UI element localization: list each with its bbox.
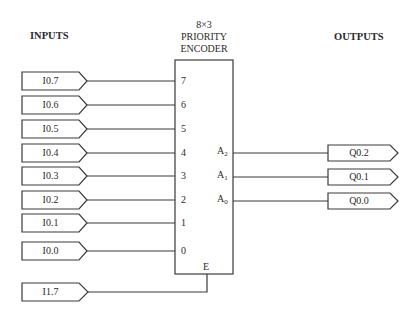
pin-5: 5 (181, 123, 186, 134)
outputs-heading: OUTPUTS (334, 31, 384, 42)
input-label: I0.4 (22, 144, 79, 161)
encoder-title-line1: 8×3 (164, 19, 244, 31)
pin-3: 3 (181, 170, 186, 181)
enable-input-label: I1.7 (22, 283, 79, 300)
pin-6: 6 (181, 99, 186, 110)
encoder-title-line2: PRIORITY (164, 31, 244, 43)
pin-7: 7 (181, 75, 186, 86)
pin-4: 4 (181, 147, 186, 158)
input-label: I0.0 (22, 242, 79, 259)
input-label: I0.6 (22, 96, 79, 113)
encoder-block (175, 60, 233, 274)
encoder-title-line3: ENCODER (164, 43, 244, 55)
output-label: Q0.2 (328, 144, 390, 161)
pin-a1: A1 (217, 169, 228, 182)
input-label: I0.7 (22, 72, 79, 89)
pin-0: 0 (181, 245, 186, 256)
input-label: I0.3 (22, 167, 79, 184)
pin-a2: A2 (217, 145, 228, 158)
pin-enable: E (203, 261, 209, 272)
output-label: Q0.0 (328, 192, 390, 209)
pin-1: 1 (181, 217, 186, 228)
inputs-heading: INPUTS (30, 30, 69, 41)
input-label: I0.2 (22, 191, 79, 208)
pin-2: 2 (181, 194, 186, 205)
output-label: Q0.1 (328, 168, 390, 185)
input-label: I0.5 (22, 120, 79, 137)
pin-a0: A0 (217, 193, 228, 206)
input-label: I0.1 (22, 214, 79, 231)
